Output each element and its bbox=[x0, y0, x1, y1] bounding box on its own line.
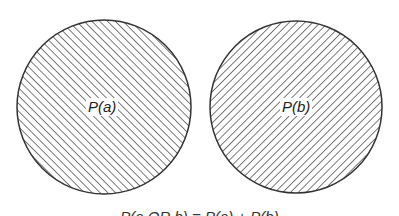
caption-formula: P(a OR b) = P(a) + P(b) bbox=[0, 208, 399, 216]
circle-b-label: P(b) bbox=[280, 98, 312, 116]
circle-a-label: P(a) bbox=[86, 98, 118, 116]
venn-diagram bbox=[0, 0, 399, 216]
